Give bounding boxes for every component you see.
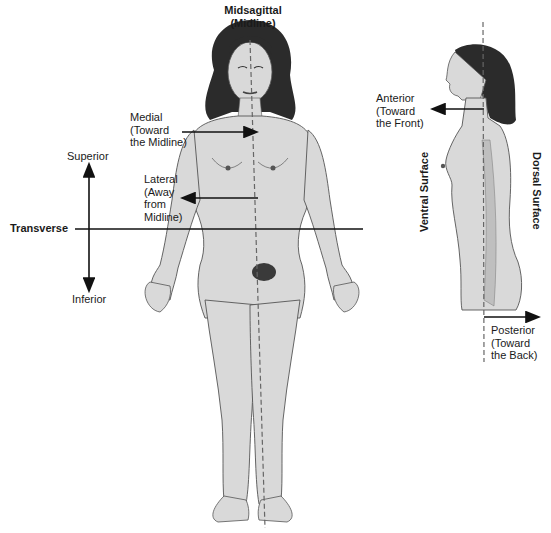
anatomical-planes-diagram: Midsagittal (Midline) Medial (Toward the… xyxy=(0,0,551,533)
front-torso xyxy=(190,116,312,318)
lateral-label-line3: from xyxy=(144,198,183,211)
medial-label-line2: (Toward xyxy=(130,124,187,137)
side-body-figure xyxy=(441,44,522,310)
midsagittal-label-line2: (Midline) xyxy=(218,17,288,30)
midsagittal-label-line1: Midsagittal xyxy=(218,4,288,17)
lateral-label-line2: (Away xyxy=(144,186,183,199)
anterior-label: Anterior (Toward the Front) xyxy=(376,92,424,130)
lateral-label: Lateral (Away from Midline) xyxy=(144,173,183,223)
front-right-arm xyxy=(304,130,353,300)
dorsal-surface-label: Dorsal Surface xyxy=(531,152,544,230)
inferior-label: Inferior xyxy=(72,293,106,306)
posterior-label-line3: the Back) xyxy=(491,349,537,362)
superior-label: Superior xyxy=(67,150,109,163)
anterior-label-line2: (Toward xyxy=(376,105,424,118)
midsagittal-label: Midsagittal (Midline) xyxy=(218,4,288,29)
anterior-label-line1: Anterior xyxy=(376,92,424,105)
lateral-label-line1: Lateral xyxy=(144,173,183,186)
medial-label-line1: Medial xyxy=(130,111,187,124)
front-body-figure xyxy=(145,20,359,522)
medial-label: Medial (Toward the Midline) xyxy=(130,111,187,149)
anatomy-illustration xyxy=(0,0,551,533)
posterior-label: Posterior (Toward the Back) xyxy=(491,324,537,362)
lateral-label-line4: Midline) xyxy=(144,211,183,224)
anterior-label-line3: the Front) xyxy=(376,117,424,130)
ventral-surface-label: Ventral Surface xyxy=(418,152,431,232)
posterior-label-line1: Posterior xyxy=(491,324,537,337)
medial-label-line3: the Midline) xyxy=(130,136,187,149)
posterior-label-line2: (Toward xyxy=(491,337,537,350)
transverse-label: Transverse xyxy=(10,222,68,235)
